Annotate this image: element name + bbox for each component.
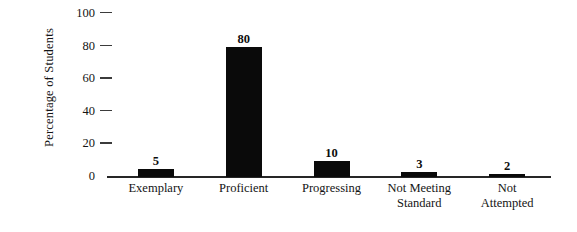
- bar-chart: Percentage of Students 020406080100 5801…: [0, 0, 577, 232]
- bar-value-label: 80: [237, 32, 250, 46]
- bar-column: 3: [401, 157, 437, 177]
- y-axis-tick-label: 80: [59, 39, 95, 53]
- y-axis-tick: 80: [58, 39, 112, 53]
- bar-value-label: 2: [504, 159, 510, 173]
- y-axis-tick: 60: [58, 71, 112, 85]
- bar-rect: [138, 169, 174, 177]
- bar-column: 5: [138, 154, 174, 177]
- bar-column: 80: [226, 32, 262, 177]
- x-axis-label-line: Progressing: [288, 181, 376, 196]
- y-axis-title: Percentage of Students: [42, 3, 57, 173]
- y-axis-tick-mark: [100, 142, 112, 143]
- x-axis-label-line: Exemplary: [112, 181, 200, 196]
- bar-rect: [401, 172, 437, 177]
- y-axis-tick-mark: [100, 77, 112, 78]
- y-axis-tick-mark: [100, 110, 112, 111]
- x-axis-label-line: Standard: [375, 196, 463, 211]
- y-axis-tick: 20: [58, 136, 112, 150]
- bar-value-label: 3: [416, 157, 422, 171]
- y-axis-tick-mark: [100, 12, 112, 13]
- bar-rect: [226, 47, 262, 177]
- y-axis-tick-label: 40: [59, 104, 95, 118]
- y-axis-tick: 40: [58, 104, 112, 118]
- bar-value-label: 5: [153, 154, 159, 168]
- y-axis-tick-label: 0: [59, 169, 95, 183]
- y-axis-tick-label: 60: [59, 71, 95, 85]
- x-axis-label: Progressing: [288, 181, 376, 196]
- x-axis-label: Exemplary: [112, 181, 200, 196]
- y-axis-tick-label: 20: [59, 136, 95, 150]
- x-axis-label: NotAttempted: [463, 181, 551, 210]
- bar-rect: [489, 174, 525, 177]
- y-axis-tick: 100: [58, 6, 112, 20]
- bar-column: 2: [489, 159, 525, 177]
- bar-value-label: 10: [325, 146, 338, 160]
- plot-area: 5801032: [112, 13, 551, 177]
- x-axis-label-line: Proficient: [200, 181, 288, 196]
- y-axis-tick: 0: [58, 169, 112, 183]
- x-axis-label: Proficient: [200, 181, 288, 196]
- y-axis-tick-mark: [100, 45, 112, 46]
- x-axis-label-line: Attempted: [463, 196, 551, 211]
- bar-column: 10: [314, 146, 350, 177]
- y-axis-tick-label: 100: [59, 6, 95, 20]
- x-axis-label-line: Not: [463, 181, 551, 196]
- x-axis-label: Not MeetingStandard: [375, 181, 463, 210]
- x-axis-label-line: Not Meeting: [375, 181, 463, 196]
- bar-rect: [314, 161, 350, 177]
